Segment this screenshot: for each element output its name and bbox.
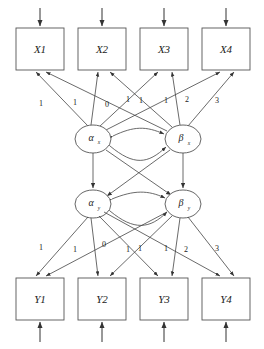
latent-node-alpha-y: α y [75,190,111,218]
loading-label-bottom-3: 0 [102,240,106,249]
loading-betax-x4 [188,72,234,126]
loading-label-top-3: 0 [105,100,109,109]
observed-label-y2: Y2 [96,293,108,305]
loading-alphax-x2 [91,72,98,125]
observed-label-y4: Y4 [220,293,232,305]
loading-label-bottom-5: 1 [138,244,142,253]
loading-label-bottom-8: 3 [215,244,219,253]
loading-labels-top: 1 1 0 1 1 1 2 3 [39,95,219,109]
covariance-curve-upper-top [113,128,164,136]
observed-label-x3: X3 [157,43,171,55]
y-indicator-boxes: Y1 Y2 Y3 Y4 [16,278,250,320]
latent-node-beta-x: β x [165,125,201,153]
latent-symbol-alpha-x: α [88,132,94,143]
residual-arrows-bottom [40,322,226,342]
latent-subscript-alpha-x: x [97,139,101,145]
latent-symbol-alpha-y: α [88,197,94,208]
structural-paths [93,150,183,196]
loading-label-top-8: 3 [215,96,219,105]
observed-label-x2: X2 [95,43,109,55]
observed-label-x1: X1 [33,43,46,55]
loading-betay-y4 [188,217,234,276]
loading-label-top-7: 2 [185,95,189,104]
covariance-curve-upper-bottom [112,192,165,199]
latent-node-beta-y: β y [165,190,201,218]
loading-label-top-5: 1 [139,96,143,105]
residual-arrows-top [40,8,226,26]
loading-label-top-1: 1 [39,99,43,108]
observed-label-y3: Y3 [158,293,170,305]
latent-subscript-beta-x: x [187,140,191,146]
loading-label-bottom-6: 1 [164,244,168,253]
latent-symbol-beta-y: β [178,197,184,208]
sem-canvas: X1 X2 X3 X4 1 1 0 1 1 [0,0,264,349]
sem-diagram: X1 X2 X3 X4 1 1 0 1 1 [0,0,264,349]
covariance-curve-lower-bottom [110,211,167,225]
observed-label-x4: X4 [219,43,233,55]
loading-label-bottom-7: 2 [184,245,188,254]
loading-label-bottom-2: 1 [73,245,77,254]
latent-symbol-beta-x: β [178,132,184,143]
x-indicator-boxes: X1 X2 X3 X4 [16,28,250,70]
loading-label-top-4: 1 [126,95,130,104]
loading-alphay-y2 [91,218,98,276]
latent-subscript-alpha-y: y [97,205,101,211]
loading-label-top-6: 1 [164,96,168,105]
loading-alphay-y4 [104,212,220,276]
observed-label-y1: Y1 [34,293,46,305]
loading-betax-x3 [172,72,180,125]
latent-node-alpha-x: α x [75,125,111,153]
loading-label-bottom-1: 1 [39,243,43,252]
latent-subscript-beta-y: y [187,205,191,211]
loading-label-top-2: 1 [73,98,77,107]
loading-alphax-x4 [104,72,220,131]
loading-betay-y3 [172,218,180,276]
covariance-alphax-betax [110,128,166,160]
loading-label-bottom-4: 1 [126,245,130,254]
